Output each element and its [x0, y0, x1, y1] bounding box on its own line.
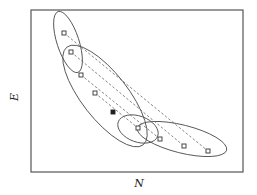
open-square-marker-p6	[158, 137, 162, 141]
x-axis-label: N	[133, 177, 144, 190]
open-square-marker-p4	[93, 91, 97, 95]
y-axis-label: E	[8, 93, 21, 102]
dashed-connection-p3-p6	[81, 75, 160, 139]
dashed-connection-p4-p5	[95, 93, 138, 128]
dashed-connection-p2-p7	[71, 52, 184, 146]
open-square-marker-p7	[182, 144, 186, 148]
ellipse-center	[49, 33, 162, 159]
open-square-marker-p2	[69, 50, 73, 54]
filled-square-marker-c	[111, 110, 115, 114]
diagram: E N	[0, 0, 257, 195]
open-square-marker-p5	[136, 126, 140, 130]
dashed-connection-p1-p8	[64, 33, 208, 151]
ellipse-upper-left	[48, 8, 89, 76]
ellipse-lower-right	[134, 114, 230, 163]
points	[62, 31, 210, 153]
open-square-marker-p1	[62, 31, 66, 35]
open-square-marker-p8	[206, 149, 210, 153]
open-square-marker-p3	[79, 73, 83, 77]
connections	[64, 33, 208, 151]
